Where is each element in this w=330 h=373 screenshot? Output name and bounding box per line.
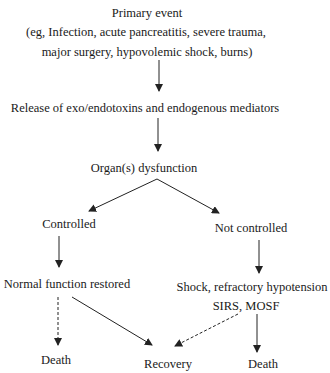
node-primary-event-examples-line1: (eg, Infection, acute pancreatitis, seve… [26,26,266,39]
arrow-shock-to-recovery-dashed [175,314,238,346]
node-shock-line1: Shock, refractory hypotension [176,281,327,294]
node-death-right: Death [248,358,278,371]
node-primary-event-examples-line2: major surgery, hypovolemic shock, burns) [42,46,253,59]
node-death-left: Death [41,354,71,367]
node-shock-line2: SIRS, MOSF [213,300,280,313]
flowchart-diagram: Primary event (eg, Infection, acute panc… [0,0,330,373]
node-primary-event-title: Primary event [112,7,182,20]
node-controlled: Controlled [42,218,95,231]
node-organ-dysfunction: Organ(s) dysfunction [91,162,197,175]
node-recovery: Recovery [144,358,192,371]
node-release-mediators: Release of exo/endotoxins and endogenous… [11,102,279,115]
node-normal-function-restored: Normal function restored [4,278,130,291]
arrow-normal-to-recovery [72,297,152,345]
arrow-organ-to-controlled [89,179,157,211]
node-not-controlled: Not controlled [215,222,288,235]
arrow-organ-to-not-controlled [157,179,219,213]
